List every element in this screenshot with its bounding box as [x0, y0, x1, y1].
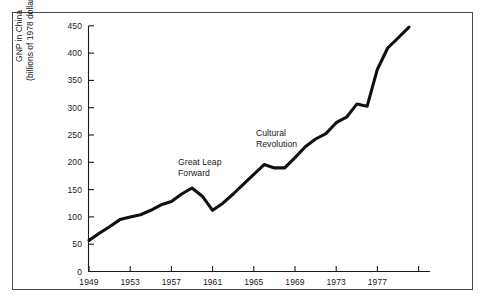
- y-tick-label-100: 100: [58, 212, 82, 222]
- y-tick-label-400: 400: [58, 48, 82, 58]
- x-tick-label-1973: 1973: [327, 277, 346, 287]
- annotation-great-leap-forward: Great Leap Forward: [178, 157, 221, 179]
- x-tick-label-1965: 1965: [244, 277, 263, 287]
- y-tick-label-450: 450: [58, 21, 82, 31]
- y-tick-label-0: 0: [58, 267, 82, 277]
- chart-figure: 0 50 100 150 200 250 300 350 400 450 194…: [0, 0, 488, 303]
- x-tick-label-1961: 1961: [203, 277, 222, 287]
- chart-plot-area: [0, 0, 488, 303]
- annotation-cultural-revolution: Cultural Revolution: [256, 128, 297, 150]
- x-axis-ticks: [89, 266, 419, 272]
- y-axis-ticks: [89, 26, 95, 272]
- y-tick-label-50: 50: [58, 239, 82, 249]
- x-tick-label-1969: 1969: [285, 277, 304, 287]
- y-axis-title: GNP in China (billions of 1978 dollars): [14, 0, 36, 96]
- y-tick-label-350: 350: [58, 75, 82, 85]
- x-tick-label-1977: 1977: [368, 277, 387, 287]
- y-tick-label-250: 250: [58, 130, 82, 140]
- y-tick-label-150: 150: [58, 185, 82, 195]
- x-tick-label-1953: 1953: [121, 277, 140, 287]
- x-tick-label-1949: 1949: [79, 277, 98, 287]
- y-tick-label-200: 200: [58, 157, 82, 167]
- gnp-line-series: [89, 27, 409, 240]
- x-tick-label-1957: 1957: [162, 277, 181, 287]
- y-tick-label-300: 300: [58, 103, 82, 113]
